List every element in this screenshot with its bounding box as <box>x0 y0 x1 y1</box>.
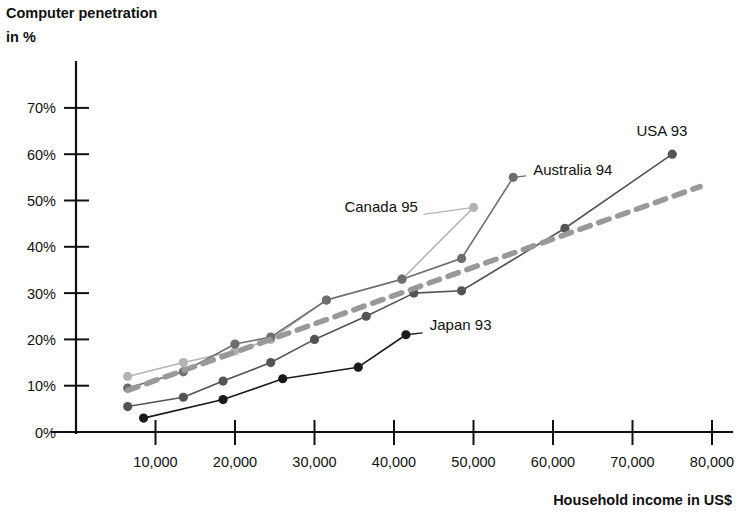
data-point <box>123 372 132 381</box>
y-tick-label: 40% <box>27 239 56 255</box>
data-point <box>278 374 287 383</box>
line-chart: 0%10%20%30%40%50%60%70% 10,00020,00030,0… <box>0 0 738 516</box>
data-point <box>123 402 132 411</box>
y-tick-label: 60% <box>27 147 56 163</box>
x-axis-title: Household income in US$ <box>553 492 732 508</box>
series-label-japan-93: Japan 93 <box>430 316 492 333</box>
data-point <box>310 335 319 344</box>
series-leader-line <box>423 207 473 214</box>
data-point <box>179 393 188 402</box>
data-point <box>322 295 331 304</box>
y-tick-label: 50% <box>27 193 56 209</box>
x-tick-label: 10,000 <box>133 454 177 470</box>
data-point <box>230 339 239 348</box>
y-tick-label: 70% <box>27 100 56 116</box>
y-axis-title-line1: Computer penetration <box>6 5 157 21</box>
data-point <box>179 358 188 367</box>
data-point <box>668 150 677 159</box>
chart-series-group <box>123 150 700 423</box>
data-point <box>457 254 466 263</box>
y-tick-label: 10% <box>27 378 56 394</box>
series-line-trend <box>128 187 700 391</box>
y-axis-ticks: 0%10%20%30%40%50%60%70% <box>27 100 89 440</box>
chart-container: 0%10%20%30%40%50%60%70% 10,00020,00030,0… <box>0 0 738 516</box>
data-point <box>457 286 466 295</box>
data-point <box>354 363 363 372</box>
x-axis-ticks: 10,00020,00030,00040,00050,00060,00070,0… <box>133 420 734 470</box>
data-point <box>266 358 275 367</box>
data-point <box>139 414 148 423</box>
series-label-australia-94: Australia 94 <box>533 161 612 178</box>
x-tick-label: 30,000 <box>292 454 336 470</box>
x-tick-label: 20,000 <box>213 454 257 470</box>
series-label-usa-93: USA 93 <box>636 122 687 139</box>
data-point <box>362 312 371 321</box>
series-line-australia-94 <box>128 177 514 388</box>
series-label-canada-95: Canada 95 <box>344 198 417 215</box>
y-tick-label: 0% <box>35 425 56 441</box>
series-line-japan-93 <box>144 335 406 418</box>
chart-axes <box>52 62 732 433</box>
x-tick-label: 80,000 <box>690 454 734 470</box>
data-point <box>397 275 406 284</box>
y-tick-label: 20% <box>27 332 56 348</box>
x-tick-label: 50,000 <box>451 454 495 470</box>
x-tick-label: 70,000 <box>610 454 654 470</box>
data-point <box>218 376 227 385</box>
y-tick-label: 30% <box>27 286 56 302</box>
x-tick-label: 60,000 <box>531 454 575 470</box>
x-tick-label: 40,000 <box>372 454 416 470</box>
y-axis-title-line2: in % <box>6 29 36 45</box>
data-point <box>218 395 227 404</box>
